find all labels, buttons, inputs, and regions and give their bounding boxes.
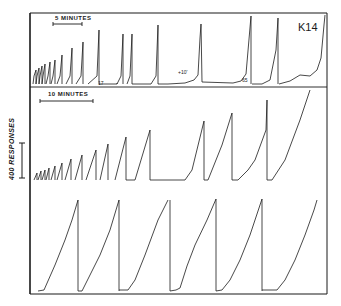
bottom-trace-ramp-4 [216,199,262,291]
top-trace-ramp-7 [66,48,72,84]
y-axis-label: 400 RESPONSES [8,118,15,181]
top-trace-ramp-3 [42,64,45,84]
top-trace-ramp-11 [127,34,132,84]
top-trace-ramp-6 [57,55,62,84]
top-trace-ramp-8 [76,42,83,84]
top-time-scale-label: 5 MINUTES [55,15,92,21]
cumulative-traces [33,15,325,291]
top-trace-ramp-10 [117,34,123,84]
top-trace-ramp-4 [46,62,50,84]
bottom-trace-ramp-3 [170,199,216,291]
middle-trace-ramp-2 [42,170,45,180]
top-trace-ramp-9 [88,30,99,84]
figure-labels: 5 MINUTES 10 MINUTES K14 17 +10' 65 400 … [8,15,318,181]
top-trace-segment-4 [252,18,278,84]
middle-time-scale-label: 10 MINUTES [48,91,88,97]
bottom-trace-ramp-1 [78,200,119,291]
middle-trace-ramp-9 [100,144,108,180]
bottom-trace-ramp-2 [119,200,168,290]
middle-trace-ramp-7 [75,155,82,180]
middle-trace-ramp-11 [126,130,150,180]
top-trace-ramp-0 [33,70,36,84]
top-trace-segment-3 [158,16,251,84]
middle-trace-ramp-0 [34,173,37,180]
figure-frame [19,13,327,294]
top-trace-ramp-2 [39,66,42,84]
middle-trace-ramp-14 [232,100,267,180]
annotation-plus-10: +10' [178,69,187,75]
middle-trace-ramp-3 [46,168,49,180]
middle-trace-ramp-5 [57,163,62,180]
top-trace-ramp-1 [36,68,39,84]
bottom-trace-ramp-5 [262,200,317,290]
middle-trace-ramp-4 [51,166,55,180]
cumulative-record-figure: 5 MINUTES 10 MINUTES K14 17 +10' 65 400 … [0,0,341,306]
middle-trace-ramp-15 [267,90,310,180]
top-trace-ramp-12 [151,25,158,84]
middle-trace-ramp-10 [115,137,126,180]
middle-trace-ramp-6 [65,159,71,180]
middle-trace-ramp-13 [204,113,232,180]
middle-trace-ramp-1 [38,171,41,180]
top-trace-ramp-5 [51,60,55,84]
annotation-17: 17 [98,80,104,86]
middle-trace-ramp-12 [150,121,204,180]
annotation-65: 65 [242,77,248,83]
subject-label: K14 [298,21,318,33]
middle-trace-ramp-8 [86,150,96,180]
bottom-trace-ramp-0 [38,200,78,291]
